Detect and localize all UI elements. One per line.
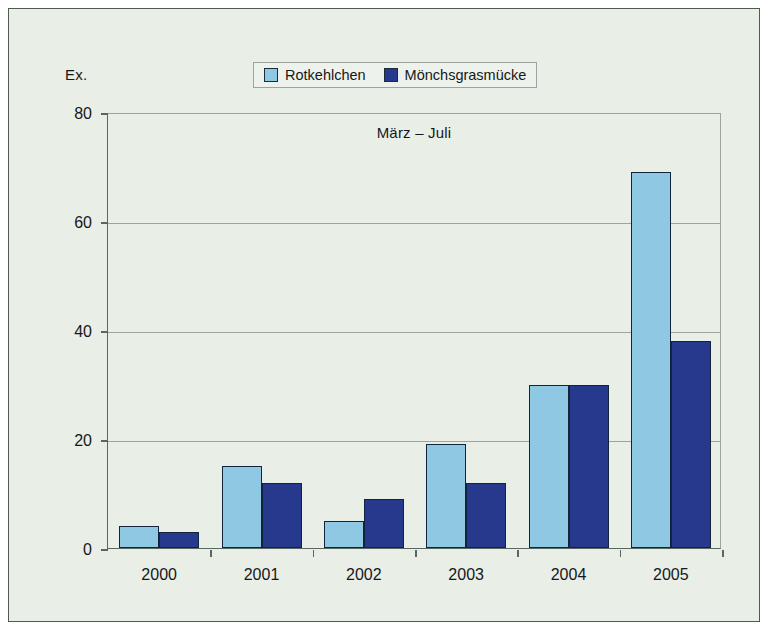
bar-2003-moenchsgrasmuecke [466,483,506,548]
bar-2004-moenchsgrasmuecke [569,385,609,549]
x-tick-label: 2000 [114,566,204,584]
legend-item-rotkehlchen: Rotkehlchen [264,67,366,83]
x-tick-label: 2003 [421,566,511,584]
x-tick-mark [415,550,417,557]
bar-2003-rotkehlchen [426,444,466,548]
bar-2002-moenchsgrasmuecke [364,499,404,548]
chart-legend: Rotkehlchen Mönchsgrasmücke [253,62,537,88]
x-tick-label: 2004 [524,566,614,584]
bar-series-container [108,114,720,548]
y-tick-mark [101,113,108,115]
y-tick-label: 20 [46,432,92,450]
bar-2000-rotkehlchen [119,526,159,548]
bar-2005-moenchsgrasmuecke [671,341,711,548]
x-tick-label: 2002 [319,566,409,584]
plot-area: März – Juli 020406080 200020012002200320… [107,113,721,549]
x-tick-mark [620,550,622,557]
y-tick-label: 60 [46,214,92,232]
y-axis-unit-label: Ex. [65,66,87,83]
y-tick-mark [101,549,108,551]
x-tick-mark [313,550,315,557]
y-tick-label: 40 [46,323,92,341]
bar-2001-moenchsgrasmuecke [262,483,302,548]
legend-label-moenchsgrasmuecke: Mönchsgrasmücke [405,67,527,83]
y-tick-mark [101,331,108,333]
bar-2001-rotkehlchen [222,466,262,548]
y-tick-label: 80 [46,105,92,123]
legend-item-moenchsgrasmuecke: Mönchsgrasmücke [384,67,527,83]
chart-figure: Ex. Rotkehlchen Mönchsgrasmücke März – J… [8,8,760,622]
x-tick-mark [210,550,212,557]
x-tick-mark [722,550,724,557]
legend-label-rotkehlchen: Rotkehlchen [285,67,366,83]
y-tick-label: 0 [46,541,92,559]
bar-2000-moenchsgrasmuecke [159,532,199,548]
y-tick-mark [101,222,108,224]
x-tick-label: 2005 [626,566,716,584]
bar-2002-rotkehlchen [324,521,364,548]
legend-swatch-rotkehlchen [264,68,278,82]
bar-2005-rotkehlchen [631,172,671,548]
x-tick-label: 2001 [217,566,307,584]
bar-2004-rotkehlchen [529,385,569,549]
y-tick-mark [101,440,108,442]
legend-swatch-moenchsgrasmuecke [384,68,398,82]
x-tick-mark [517,550,519,557]
